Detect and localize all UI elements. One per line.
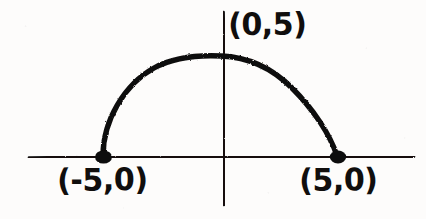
right-endpoint-label: (5,0) [299, 164, 378, 196]
y-axis [224, 12, 225, 205]
left-endpoint-label: (-5,0) [57, 164, 148, 196]
x-axis [29, 157, 414, 158]
semicircle-curve [103, 56, 337, 156]
semicircle-diagram: (0,5) (-5,0) (5,0) [0, 0, 426, 219]
apex-label: (0,5) [228, 8, 307, 40]
